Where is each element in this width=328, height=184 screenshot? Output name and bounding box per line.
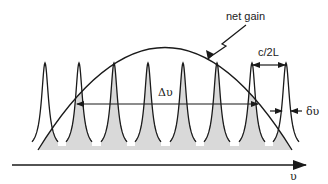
lasing-shaded-region xyxy=(30,63,300,150)
gain-bandwidth-label: Δυ xyxy=(158,86,173,99)
net-gain-pointer xyxy=(206,25,246,60)
laser-mode-diagram: net gain Δυ c/2L δυ υ xyxy=(0,0,328,184)
linewidth-label: δυ xyxy=(306,105,320,118)
frequency-axis-label: υ xyxy=(290,170,297,183)
mode-spacing-label: c/2L xyxy=(258,46,279,58)
net-gain-label: net gain xyxy=(226,10,265,22)
